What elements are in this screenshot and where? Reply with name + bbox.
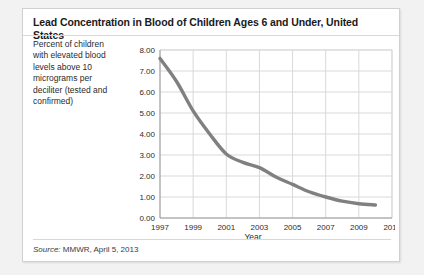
svg-text:7.00: 7.00	[139, 67, 155, 76]
svg-text:2003: 2003	[251, 223, 269, 232]
svg-text:2007: 2007	[317, 223, 335, 232]
x-axis-tick-labels: 19971999200120032005200720092011	[151, 223, 395, 232]
svg-text:1.00: 1.00	[139, 193, 155, 202]
line-chart-svg: 0.001.002.003.004.005.006.007.008.00 199…	[111, 37, 395, 237]
y-axis-tick-labels: 0.001.002.003.004.005.006.007.008.00	[139, 46, 155, 223]
source-label: Source:	[33, 245, 61, 254]
svg-text:2.00: 2.00	[139, 172, 155, 181]
y-axis-description: Percent of children with elevated blood …	[33, 39, 111, 107]
svg-text:4.00: 4.00	[139, 130, 155, 139]
svg-text:2009: 2009	[350, 223, 368, 232]
plot-area: 0.001.002.003.004.005.006.007.008.00 199…	[111, 37, 395, 237]
svg-text:1999: 1999	[184, 223, 202, 232]
source-note: Source: MMWR, April 5, 2013	[33, 245, 138, 254]
svg-text:1997: 1997	[151, 223, 169, 232]
data-series-line	[160, 58, 375, 205]
svg-text:2001: 2001	[217, 223, 235, 232]
svg-text:3.00: 3.00	[139, 151, 155, 160]
source-divider	[33, 239, 391, 240]
horizontal-gridlines	[160, 50, 392, 218]
svg-text:8.00: 8.00	[139, 46, 155, 55]
svg-text:2011: 2011	[383, 223, 395, 232]
title-divider	[23, 35, 399, 36]
svg-text:0.00: 0.00	[139, 214, 155, 223]
chart-card: Lead Concentration in Blood of Children …	[22, 8, 400, 262]
x-axis-title: Year	[111, 232, 395, 242]
source-value: MMWR, April 5, 2013	[61, 245, 139, 254]
svg-text:6.00: 6.00	[139, 88, 155, 97]
svg-text:2005: 2005	[284, 223, 302, 232]
svg-text:5.00: 5.00	[139, 109, 155, 118]
